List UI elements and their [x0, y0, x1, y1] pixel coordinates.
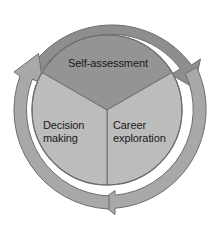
segment-label-career-exploration: Career exploration [113, 119, 183, 144]
segment-label-decision-making: Decision making [43, 119, 103, 144]
cycle-diagram-svg [0, 0, 215, 230]
segment-label-self-assessment: Self-assessment [52, 57, 164, 70]
cycle-diagram: Self-assessment Career exploration Decis… [0, 0, 215, 230]
